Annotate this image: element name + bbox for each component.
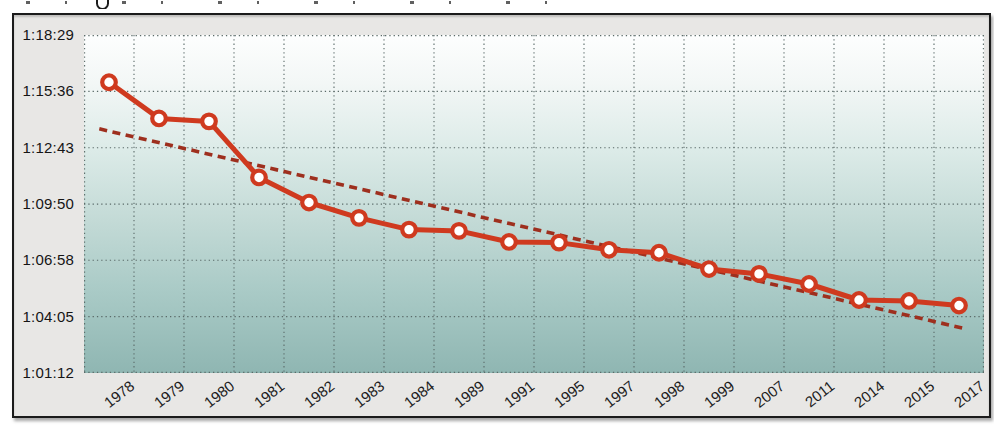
x-axis-tick-label: 1995 [536, 377, 587, 422]
data-point-marker [202, 115, 216, 129]
data-point-marker [102, 75, 116, 89]
data-point-marker [702, 262, 716, 276]
chart-screenshot: 1:18:291:15:361:12:431:09:501:06:581:04:… [0, 0, 994, 425]
x-axis-tick-label: 1978 [86, 377, 137, 422]
data-point-marker [652, 246, 666, 260]
x-axis-tick-label: 2007 [736, 377, 787, 422]
cropped-title-g-descender [96, 0, 109, 9]
data-point-marker [452, 224, 466, 238]
y-axis-tick-label: 1:01:12 [16, 364, 74, 382]
trend-line [99, 129, 962, 328]
data-point-marker [152, 112, 166, 126]
x-axis-tick-label: 2015 [886, 377, 937, 422]
x-axis-tick-label: 1989 [436, 377, 487, 422]
data-point-marker [852, 293, 866, 307]
plot-area [84, 35, 984, 373]
data-point-marker [752, 267, 766, 281]
data-point-marker [252, 171, 266, 185]
data-point-marker [552, 236, 566, 250]
data-point-marker [402, 223, 416, 237]
x-axis-tick-label: 2011 [786, 377, 837, 422]
y-axis-tick-label: 1:09:50 [16, 195, 74, 213]
x-axis-tick-label: 1980 [186, 377, 237, 422]
x-axis-tick-label: 1982 [286, 377, 337, 422]
x-axis-tick-label: 1997 [586, 377, 637, 422]
x-axis-tick-label: 1979 [136, 377, 187, 422]
plot-canvas [84, 35, 984, 373]
data-point-marker [952, 299, 966, 313]
x-axis-tick-label: 2014 [836, 377, 887, 422]
data-point-marker [302, 196, 316, 210]
x-axis-tick-label: 1983 [336, 377, 387, 422]
x-axis-tick-label: 1999 [686, 377, 737, 422]
data-point-marker [802, 277, 816, 291]
data-point-marker [602, 243, 616, 257]
chart-frame: 1:18:291:15:361:12:431:09:501:06:581:04:… [12, 13, 991, 418]
y-axis-tick-label: 1:04:05 [16, 308, 74, 326]
x-axis-tick-label: 2017 [936, 377, 987, 422]
x-axis-tick-label: 1981 [236, 377, 287, 422]
data-point-marker [352, 211, 366, 225]
x-axis-tick-label: 1998 [636, 377, 687, 422]
cropped-title-remnant [8, 0, 553, 9]
x-axis-tick-label: 1991 [486, 377, 537, 422]
data-point-marker [902, 294, 916, 308]
y-axis-tick-label: 1:18:29 [16, 26, 74, 44]
y-axis-tick-label: 1:06:58 [16, 251, 74, 269]
x-axis-tick-label: 1984 [386, 377, 437, 422]
y-axis-tick-label: 1:12:43 [16, 139, 74, 157]
y-axis-tick-label: 1:15:36 [16, 82, 74, 100]
data-point-marker [502, 235, 516, 249]
cropped-title-letter-bottoms [8, 1, 553, 4]
